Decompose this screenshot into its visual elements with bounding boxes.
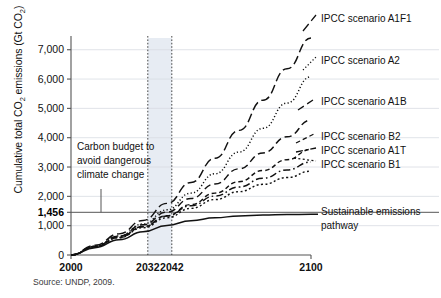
- x-tick-label: 2100: [299, 261, 323, 273]
- y-tick-label: 4,000: [38, 131, 64, 143]
- y-tick-label: 1,000: [38, 219, 64, 231]
- annotation-line: avoid dangerous: [77, 155, 151, 166]
- x-tick-label: 2042: [160, 261, 184, 273]
- emissions-scenarios-chart: 01,0001,4562,0003,0004,0005,0006,0007,00…: [0, 0, 441, 298]
- label-connector: [303, 57, 316, 70]
- y-tick-label: 6,000: [38, 73, 64, 85]
- series-label: IPCC scenario A1T: [321, 145, 406, 156]
- label-connector: [294, 158, 316, 161]
- series-label: IPCC scenario A2: [321, 55, 400, 66]
- y-axis-ticks: 01,0001,4562,0003,0004,0005,0006,0007,00…: [38, 43, 71, 260]
- series-label: IPCC scenario A1B: [321, 96, 407, 107]
- annotation-line: climate change: [77, 169, 145, 180]
- series-line: [71, 214, 311, 255]
- series-label: IPCC scenario B2: [321, 131, 401, 142]
- x-tick-label: 2032: [136, 261, 160, 273]
- series-label: Sustainable emissions: [321, 206, 421, 217]
- series-labels-layer: IPCC scenario A1F1IPCC scenario A2IPCC s…: [294, 13, 421, 231]
- y-tick-label: 3,000: [38, 161, 64, 173]
- carbon-budget-annotation: Carbon budget toavoid dangerousclimate c…: [77, 141, 155, 212]
- series-label: IPCC scenario A1F1: [321, 13, 412, 24]
- y-tick-label: 0: [58, 249, 64, 261]
- annotation-line: Carbon budget to: [77, 141, 155, 152]
- label-connector: [296, 148, 316, 152]
- y-tick-label: 1,456: [38, 206, 64, 218]
- series-label: pathway: [321, 220, 358, 231]
- x-axis-ticks: 2000203220422100: [59, 255, 323, 273]
- x-tick-label: 2000: [59, 261, 83, 273]
- y-tick-label: 2,000: [38, 190, 64, 202]
- y-tick-label: 5,000: [38, 102, 64, 114]
- label-connector: [303, 15, 316, 31]
- series-label: IPCC scenario B1: [321, 159, 401, 170]
- source-note: Source: UNDP, 2009.: [33, 277, 115, 287]
- y-tick-label: 7,000: [38, 43, 64, 55]
